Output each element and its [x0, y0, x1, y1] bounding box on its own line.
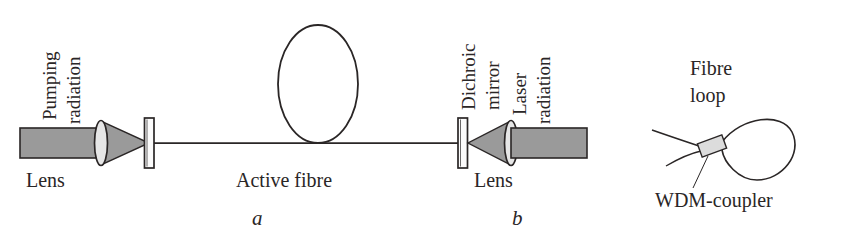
- active-fibre-loop: [278, 25, 358, 143]
- lens-left-icon: [95, 121, 108, 166]
- label-fibre-loop-line2: loop: [690, 85, 726, 105]
- pump-beam: [20, 128, 96, 158]
- label-dichroic-mirror-line1: Dichroic: [459, 44, 478, 110]
- detail-fibre-loop: [722, 119, 795, 180]
- label-dichroic-mirror-line2: mirror: [483, 61, 502, 110]
- detail-fibre-tail-lower: [666, 151, 701, 166]
- wdm-coupler-leader-line: [693, 156, 708, 188]
- schematic-artwork: [0, 0, 861, 249]
- detail-fibre-tail-upper: [652, 130, 702, 147]
- label-laser-radiation-line1: Laser: [510, 73, 529, 115]
- label-laser-radiation-line2: radiation: [534, 56, 553, 124]
- label-wdm-coupler: WDM-coupler: [655, 190, 773, 210]
- label-lens-right: Lens: [474, 170, 513, 190]
- label-active-fibre: Active fibre: [236, 170, 332, 190]
- mirror-right-icon: [458, 118, 468, 168]
- label-pumping-radiation-line2: radiation: [64, 56, 83, 124]
- figure-canvas: Pumping radiation Lens Active fibre Dich…: [0, 0, 861, 249]
- label-subfigure-b: b: [512, 208, 523, 229]
- label-subfigure-a: a: [252, 208, 263, 229]
- mirror-left-icon: [145, 118, 155, 168]
- label-fibre-loop-line1: Fibre: [690, 58, 732, 78]
- label-pumping-radiation-line1: Pumping: [40, 51, 59, 120]
- label-lens-left: Lens: [26, 170, 65, 190]
- laser-output-beam: [511, 128, 587, 158]
